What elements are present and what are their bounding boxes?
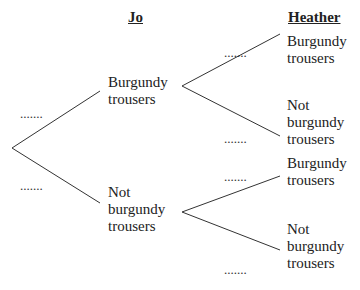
prob-blank-jo-burgundy[interactable]: .......	[20, 106, 43, 122]
node-jo-not-burgundy: Not burgundy trousers	[108, 184, 165, 235]
prob-blank-jo-not-burgundy[interactable]: .......	[20, 178, 43, 194]
branch-root-to-not-burgundy	[12, 148, 100, 203]
branch-nb-to-nb	[182, 212, 280, 250]
node-heather-nb-nb: Not burgundy trousers	[287, 221, 344, 272]
prob-blank-nb-b[interactable]: .......	[224, 169, 247, 185]
node-heather-b-nb: Not burgundy trousers	[287, 97, 344, 148]
branch-b-to-nb	[182, 86, 280, 136]
prob-blank-b-nb[interactable]: .......	[224, 131, 247, 147]
prob-blank-nb-nb[interactable]: .......	[224, 262, 247, 278]
prob-blank-b-b[interactable]: .......	[224, 45, 247, 61]
node-heather-b-b: Burgundy trousers	[287, 33, 347, 67]
header-heather: Heather	[288, 9, 340, 26]
node-heather-nb-b: Burgundy trousers	[287, 155, 347, 189]
node-jo-burgundy: Burgundy trousers	[108, 74, 168, 108]
header-jo: Jo	[128, 9, 143, 26]
